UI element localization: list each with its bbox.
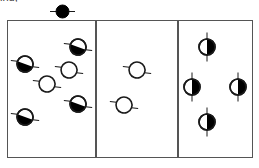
vertical-half-filled-circle-marker: [223, 72, 253, 102]
diagonal-half-filled-circle-marker: [10, 102, 40, 132]
panel-middle: [96, 20, 178, 158]
caption-text-fragment: ind;: [0, 0, 18, 2]
figure-root: ind;: [0, 0, 259, 168]
vertical-half-filled-circle-marker: [192, 107, 222, 137]
open-circle-marker: [122, 55, 152, 85]
vertical-half-filled-circle-marker: [192, 32, 222, 62]
open-circle-marker: [32, 69, 62, 99]
vertical-half-filled-circle-marker: [177, 72, 207, 102]
diagonal-half-filled-circle-marker: [63, 89, 93, 119]
open-circle-marker: [109, 90, 139, 120]
